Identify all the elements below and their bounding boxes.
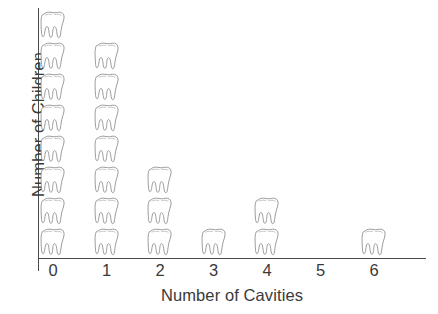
x-tick-label-2: 2: [145, 261, 175, 280]
tooth-icon: [40, 73, 66, 101]
tooth-icon: [40, 104, 66, 132]
tooth-icon: [254, 228, 280, 256]
tooth-icon: [40, 11, 66, 39]
picto-column-3: [197, 0, 231, 258]
tooth-icon: [40, 228, 66, 256]
tooth-icon: [254, 197, 280, 225]
tooth-icon: [40, 42, 66, 70]
picto-column-0: [36, 0, 70, 258]
tooth-icon: [94, 42, 120, 70]
x-tick-label-6: 6: [359, 261, 389, 280]
x-tick-label-1: 1: [92, 261, 122, 280]
tooth-icon: [147, 197, 173, 225]
tooth-icon: [94, 166, 120, 194]
tooth-icon: [201, 228, 227, 256]
tooth-icon: [40, 135, 66, 163]
x-tick-label-4: 4: [252, 261, 282, 280]
x-axis-line: [38, 258, 426, 259]
tooth-icon: [94, 228, 120, 256]
x-tick-label-0: 0: [38, 261, 68, 280]
picto-column-6: [357, 0, 391, 258]
picto-column-4: [250, 0, 284, 258]
pictograph-plot-area: [0, 0, 438, 258]
picto-column-5: [304, 0, 338, 258]
tooth-icon: [147, 166, 173, 194]
tooth-icon: [94, 104, 120, 132]
pictograph-figure: Number of Children Number of Cavities 01…: [0, 0, 438, 314]
tooth-icon: [94, 197, 120, 225]
x-axis-title: Number of Cavities: [38, 286, 426, 305]
x-tick-label-5: 5: [306, 261, 336, 280]
tooth-icon: [94, 135, 120, 163]
tooth-icon: [40, 166, 66, 194]
tooth-icon: [361, 228, 387, 256]
tooth-icon: [147, 228, 173, 256]
tooth-icon: [40, 197, 66, 225]
picto-column-2: [143, 0, 177, 258]
x-tick-label-3: 3: [199, 261, 229, 280]
tooth-icon: [94, 73, 120, 101]
picto-column-1: [90, 0, 124, 258]
